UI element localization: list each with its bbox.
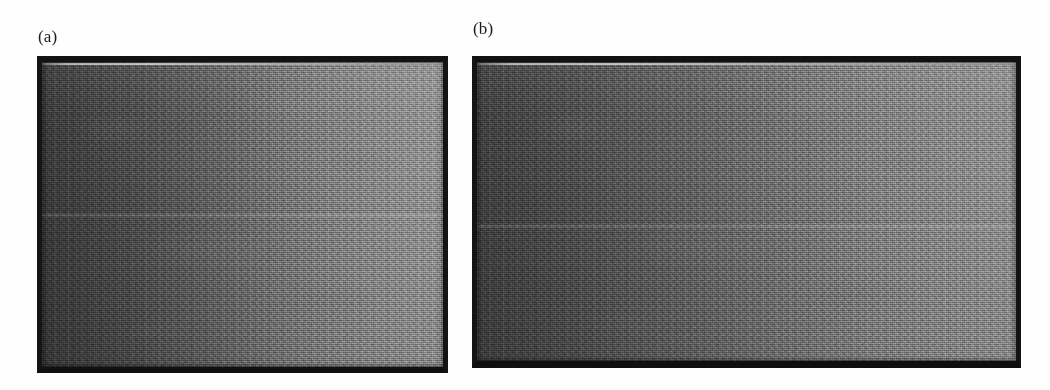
figure-panel-a <box>37 56 448 373</box>
panel-a-image <box>42 62 443 367</box>
figure-panel-b <box>472 56 1021 368</box>
figure-root: (a) (b) <box>0 0 1050 390</box>
panel-b-inner-shadow <box>477 62 1016 361</box>
panel-a-inner-shadow <box>42 62 443 367</box>
panel-label-b: (b) <box>473 20 493 37</box>
panel-b-image <box>477 62 1016 361</box>
panel-label-a: (a) <box>38 28 57 45</box>
